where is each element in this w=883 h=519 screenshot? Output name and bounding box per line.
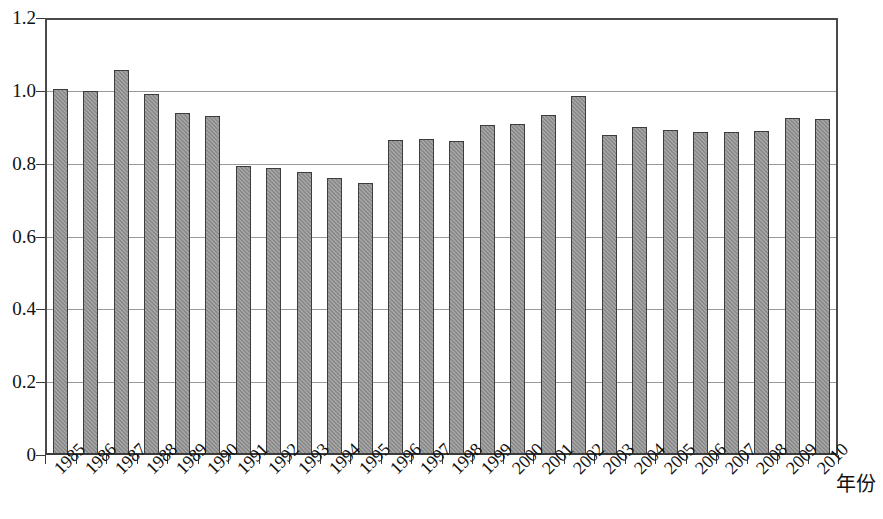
bar: [571, 96, 586, 455]
bar: [785, 118, 800, 455]
y-axis-label-column: 00.20.40.60.81.01.2: [0, 0, 36, 519]
bar: [114, 70, 129, 455]
bar: [175, 113, 190, 455]
y-axis-tick: [36, 164, 45, 165]
bar: [144, 94, 159, 455]
bar: [693, 132, 708, 455]
y-axis-tick: [36, 382, 45, 383]
y-axis-tick: [36, 237, 45, 238]
bar: [419, 139, 434, 455]
bar: [388, 140, 403, 455]
bar: [83, 91, 98, 455]
y-axis-tick-label: 0.6: [0, 226, 36, 248]
y-axis-tick-label: 1.0: [0, 80, 36, 102]
x-axis-labels-group: 1985198619871988198919901991199219931994…: [45, 464, 838, 519]
bar: [449, 141, 464, 455]
bar: [297, 172, 312, 455]
y-axis-tick-label: 1.2: [0, 7, 36, 29]
bar: [724, 132, 739, 455]
bar: [205, 116, 220, 455]
bar: [602, 135, 617, 455]
bar: [632, 127, 647, 455]
x-axis-tick: [45, 455, 46, 464]
bar: [510, 124, 525, 455]
bar: [480, 125, 495, 455]
bar: [53, 89, 68, 455]
bar: [815, 119, 830, 455]
y-axis-tick-label: 0.2: [0, 371, 36, 393]
y-axis-tick-label: 0.8: [0, 153, 36, 175]
y-axis-tick: [36, 18, 45, 19]
y-axis-tick-label: 0.4: [0, 298, 36, 320]
bar: [754, 131, 769, 455]
bars-group: [45, 18, 838, 455]
bar: [236, 166, 251, 455]
y-axis-tick: [36, 91, 45, 92]
x-axis-title: 年份: [836, 468, 876, 497]
bar-chart: 00.20.40.60.81.01.2 19851986198719881989…: [0, 0, 883, 519]
bar: [358, 183, 373, 455]
bar: [541, 115, 556, 455]
y-axis-tick: [36, 309, 45, 310]
bar: [663, 130, 678, 455]
y-axis-tick-label: 0: [0, 444, 36, 466]
bar: [266, 168, 281, 455]
bar: [327, 178, 342, 455]
y-axis-tick: [36, 455, 45, 456]
